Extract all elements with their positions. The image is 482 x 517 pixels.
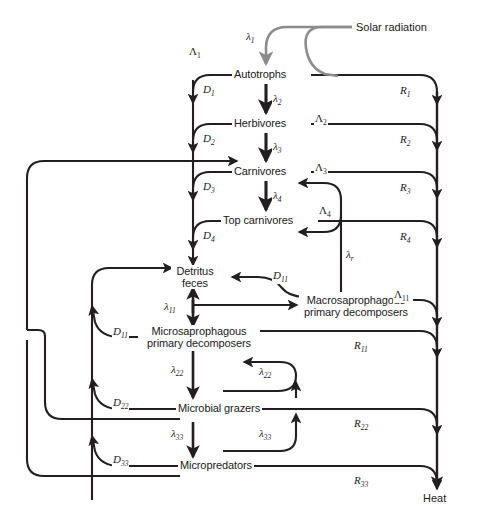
energy-flow-diagram: Autotrophs Herbivores Carnivores Top car…: [0, 0, 482, 517]
flow-label-lambda22-down: λ22: [170, 363, 184, 378]
node-microsaprophagous-label: Microsaprophagous: [140, 325, 258, 337]
line-grazers-to-R22: [246, 409, 437, 434]
line-microsap-to-R11: [258, 331, 437, 357]
arrow-D11-macrosap-to-detritus: [232, 277, 304, 297]
solar-radiation-label: Solar radiation: [356, 21, 427, 33]
node-top-carnivores[interactable]: Top carnivores: [221, 215, 295, 227]
flow-label-lambda2: λ2: [272, 92, 283, 107]
flow-label-lambda11: λ11: [163, 300, 177, 315]
arrow-D22-grazers-to-column: [92, 379, 180, 409]
node-macrosaprophagous-sub: primary decomposers: [301, 306, 411, 318]
line-herbivores-to-R2: [311, 124, 437, 150]
node-microsaprophagous-sub: primary decomposers: [140, 337, 258, 349]
flow-label-D22: D22: [112, 396, 129, 411]
node-feces-label: feces: [173, 277, 217, 289]
arrow-lambdar-trunk: [299, 183, 341, 292]
line-topcarnivores-to-R4: [318, 221, 437, 247]
flow-label-R4: R4: [399, 230, 411, 245]
flow-label-Lambda2: Λ2: [314, 112, 328, 127]
line-autotrophs-to-R1: [311, 75, 437, 104]
node-carnivores[interactable]: Carnivores: [232, 166, 288, 178]
flow-label-Lambda1: Λ1: [188, 45, 202, 60]
flow-label-lambda33-down: λ33: [170, 427, 184, 442]
node-microsaprophagous[interactable]: Microsaprophagous primary decomposers: [138, 325, 260, 349]
flow-label-lambda4: λ4: [272, 189, 283, 204]
node-autotrophs-label: Autotrophs: [234, 68, 286, 80]
node-herbivores[interactable]: Herbivores: [232, 118, 288, 130]
line-carnivores-to-R3: [311, 172, 437, 198]
flow-label-lambda22-return: λ22: [258, 365, 272, 380]
flow-label-lambdar: λr: [345, 248, 355, 263]
flow-label-Lambda3: Λ3: [314, 161, 328, 176]
flow-label-R1: R1: [399, 84, 411, 99]
flow-label-D4: D4: [202, 229, 216, 244]
flow-label-R22: R22: [353, 417, 369, 432]
flow-label-Lambda4: Λ4: [318, 204, 332, 219]
line-micropred-to-R33: [251, 466, 437, 489]
node-top-carnivores-label: Top carnivores: [223, 214, 293, 226]
node-microbial-grazers[interactable]: Microbial grazers: [176, 403, 262, 415]
node-herbivores-label: Herbivores: [234, 117, 286, 129]
flow-label-D3: D3: [202, 180, 216, 195]
node-detritus-label: Detritus: [173, 265, 217, 277]
flow-label-R2: R2: [399, 133, 411, 148]
node-autotrophs[interactable]: Autotrophs: [232, 69, 288, 81]
flow-label-lambda33-return: λ33: [258, 427, 272, 442]
arrow-solar-to-R1-line: [306, 27, 352, 76]
flow-label-R11: R11: [353, 339, 369, 354]
flow-label-lambda1: λ1: [245, 30, 256, 45]
heat-label: Heat: [423, 492, 446, 504]
node-carnivores-label: Carnivores: [234, 165, 286, 177]
node-micropredators-label: Micropredators: [180, 459, 252, 471]
node-detritus-feces[interactable]: Detritus feces: [171, 265, 219, 289]
flow-label-R33: R33: [353, 474, 369, 489]
arrow-D33-micropred-to-column: [92, 436, 180, 466]
node-microbial-grazers-label: Microbial grazers: [178, 402, 260, 414]
node-micropredators[interactable]: Micropredators: [178, 460, 254, 472]
flow-label-D33: D33: [112, 453, 129, 468]
flow-label-D11-macrosap: D11: [272, 269, 289, 284]
flow-label-D1: D1: [202, 83, 216, 98]
flow-label-R3: R3: [399, 181, 411, 196]
flow-label-lambda3: λ3: [272, 140, 283, 155]
return-left-column-join-a: [27, 330, 45, 344]
flow-label-Lambda11: Λ11: [393, 288, 410, 303]
flow-label-D11-microsap: D11: [112, 325, 129, 340]
flow-label-D2: D2: [202, 132, 216, 147]
